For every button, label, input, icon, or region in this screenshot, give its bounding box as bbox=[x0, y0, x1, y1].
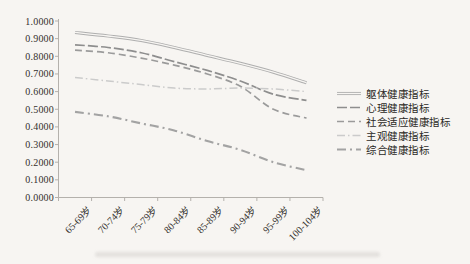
legend-item: 躯体健康指标 bbox=[336, 86, 450, 100]
series-line-0 bbox=[75, 32, 306, 82]
y-tick-label: 1.0000 bbox=[16, 16, 54, 27]
legend-label: 心理健康指标 bbox=[366, 100, 429, 115]
y-tick-label: 0.9000 bbox=[16, 33, 54, 44]
y-tick-label: 0.0000 bbox=[16, 192, 54, 203]
y-tick-label: 0.2000 bbox=[16, 157, 54, 168]
legend-label: 躯体健康指标 bbox=[366, 86, 429, 101]
legend-line-marker-icon bbox=[336, 132, 362, 139]
chart-legend: 躯体健康指标心理健康指标社会适应健康指标主观健康指标综合健康指标 bbox=[336, 86, 450, 156]
legend-line-marker-icon bbox=[336, 118, 362, 125]
legend-label: 主观健康指标 bbox=[366, 128, 429, 143]
legend-item: 心理健康指标 bbox=[336, 100, 450, 114]
y-tick-label: 0.1000 bbox=[16, 174, 54, 185]
y-tick-label: 0.5000 bbox=[16, 104, 54, 115]
series-line-0-inner bbox=[75, 32, 306, 82]
y-tick-label: 0.7000 bbox=[16, 68, 54, 79]
legend-item: 主观健康指标 bbox=[336, 128, 450, 142]
y-tick-label: 0.4000 bbox=[16, 121, 54, 132]
legend-item: 社会适应健康指标 bbox=[336, 114, 450, 128]
y-tick-label: 0.8000 bbox=[16, 51, 54, 62]
series-line-3 bbox=[75, 77, 306, 91]
y-tick-label: 0.6000 bbox=[16, 86, 54, 97]
series-line-2 bbox=[75, 50, 306, 118]
legend-line-marker-icon bbox=[336, 104, 362, 111]
legend-line-marker-icon bbox=[336, 90, 362, 97]
legend-item: 综合健康指标 bbox=[336, 142, 450, 156]
legend-label: 社会适应健康指标 bbox=[366, 114, 450, 129]
chart-figure: 1.00000.90000.80000.70000.60000.50000.40… bbox=[0, 0, 470, 264]
series-line-4 bbox=[75, 112, 306, 170]
legend-line-marker-icon bbox=[336, 146, 362, 153]
scan-artifact bbox=[95, 252, 380, 257]
legend-label: 综合健康指标 bbox=[366, 142, 429, 157]
y-tick-label: 0.3000 bbox=[16, 139, 54, 150]
